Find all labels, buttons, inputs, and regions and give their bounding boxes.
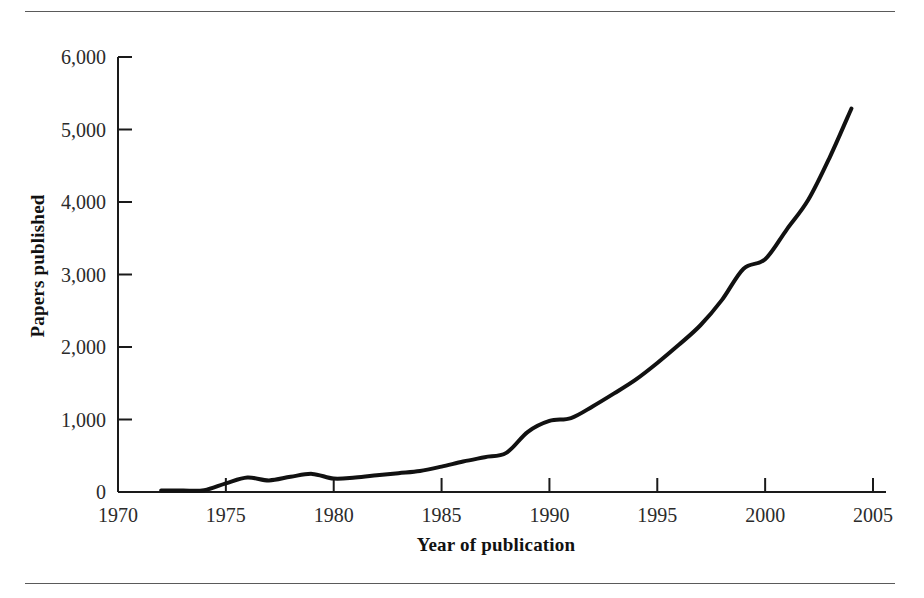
y-tick-label: 0 [30, 481, 106, 504]
y-tick-marks [118, 57, 132, 492]
y-tick-label: 6,000 [30, 46, 106, 69]
y-tick-label: 5,000 [30, 118, 106, 141]
figure-container: 01,0002,0003,0004,0005,0006,000 19701975… [0, 0, 924, 598]
x-tick-label: 1975 [186, 504, 266, 527]
y-axis-title: Papers published [27, 166, 49, 366]
data-series-line [161, 108, 851, 490]
x-tick-label: 1980 [294, 504, 374, 527]
x-tick-label: 2000 [725, 504, 805, 527]
x-tick-label: 1990 [509, 504, 589, 527]
x-tick-label: 1995 [617, 504, 697, 527]
x-tick-label: 2005 [833, 504, 913, 527]
y-tick-label: 1,000 [30, 408, 106, 431]
axis-lines [118, 57, 886, 492]
x-tick-label: 1970 [78, 504, 158, 527]
x-tick-label: 1985 [402, 504, 482, 527]
x-axis-title: Year of publication [118, 534, 874, 556]
